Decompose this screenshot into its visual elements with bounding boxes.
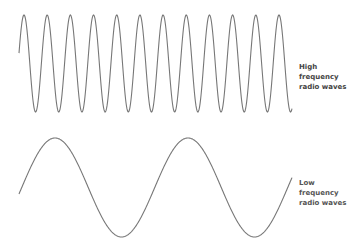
high-label-line-3: radio waves <box>299 82 347 92</box>
high-label-line-1: High <box>299 62 347 72</box>
low-label-line-3: radio waves <box>299 198 347 208</box>
radio-waves-diagram <box>0 0 363 250</box>
low-frequency-label: Low frequency radio waves <box>299 178 347 208</box>
low-frequency-wave <box>19 138 292 237</box>
low-label-line-2: frequency <box>299 188 347 198</box>
high-label-line-2: frequency <box>299 72 347 82</box>
low-label-line-1: Low <box>299 178 347 188</box>
high-frequency-wave <box>19 15 292 112</box>
high-frequency-label: High frequency radio waves <box>299 62 347 92</box>
